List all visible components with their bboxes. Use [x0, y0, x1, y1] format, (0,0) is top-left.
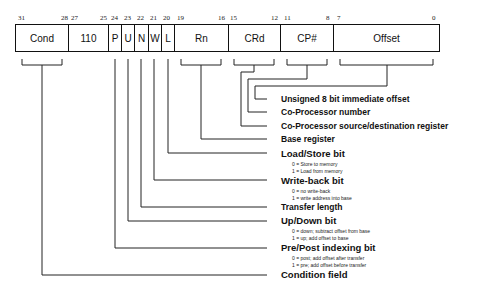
label-crd: Co-Processor source/destination register	[281, 121, 448, 131]
label-up-down-1: 1 = up; add offset to base	[292, 235, 348, 241]
label-load-store: Load/Store bit	[281, 148, 345, 159]
label-write-back-1: 1 = write address into base	[292, 195, 352, 201]
connector-lines	[0, 0, 477, 293]
label-cp-number: Co-Processor number	[281, 107, 370, 117]
label-up-down-0: 0 = down; subtract offset from base	[292, 228, 370, 234]
label-write-back-0: 0 = no write-back	[292, 188, 330, 194]
label-pre-post-0: 0 = post; add offset after transfer	[292, 255, 364, 261]
label-write-back: Write-back bit	[281, 175, 344, 186]
label-pre-post-1: 1 = pre; add offset before transfer	[292, 262, 366, 268]
coprocessor-data-transfer-diagram: 31 28 27 25 24 23 22 21 20 19 16 15 12 1…	[0, 0, 477, 293]
label-up-down: Up/Down bit	[281, 215, 336, 226]
label-base-register: Base register	[281, 134, 335, 144]
label-offset: Unsigned 8 bit immediate offset	[281, 94, 409, 104]
label-condition-field: Condition field	[281, 269, 348, 280]
label-load-store-1: 1 = Load from memory	[292, 168, 342, 174]
label-transfer-length: Transfer length	[281, 202, 342, 212]
label-load-store-0: 0 = Store to memory	[292, 161, 337, 167]
label-pre-post: Pre/Post indexing bit	[281, 242, 376, 253]
